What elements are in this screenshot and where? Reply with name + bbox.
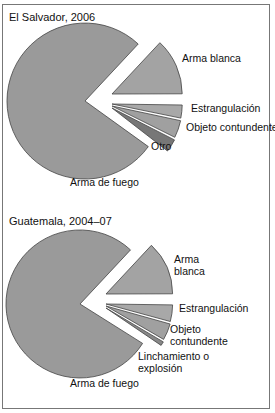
label-contundente: contundente bbox=[170, 335, 228, 347]
pie-charts: Arma blanca Estrangulación Objeto contun… bbox=[0, 0, 275, 413]
label-estrangulacion-gt: Estrangulación bbox=[179, 302, 249, 314]
label-objeto-contundente: Objeto contundente bbox=[186, 121, 275, 133]
label-arma-blanca: Arma blanca bbox=[182, 52, 241, 64]
label-arma: Arma bbox=[174, 253, 199, 265]
label-arma-de-fuego: Arma de fuego bbox=[70, 176, 139, 188]
label-estrangulacion: Estrangulación bbox=[191, 102, 261, 114]
label-linchamiento: Linchamiento o bbox=[138, 350, 209, 362]
slice-arma-de-fuego bbox=[7, 23, 148, 179]
label-explosion: explosión bbox=[138, 362, 183, 374]
pie-el-salvador bbox=[7, 23, 182, 179]
label-blanca: blanca bbox=[174, 265, 205, 277]
label-arma-de-fuego-gt: Arma de fuego bbox=[70, 377, 139, 389]
label-objeto: Objeto bbox=[170, 323, 201, 335]
label-otro: Otro bbox=[151, 140, 172, 152]
